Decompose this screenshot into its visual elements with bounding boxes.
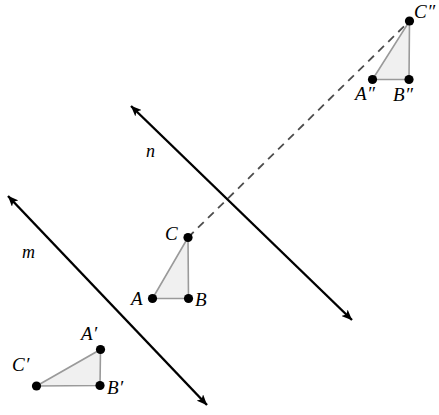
label-vertex-b-double-prime: B″ — [393, 85, 414, 104]
label-vertex-c-prime: C′ — [12, 355, 30, 374]
vertex-dot-b-prime — [95, 381, 104, 390]
label-vertex-a-double-prime: A″ — [355, 84, 376, 103]
dashed-connector-c-to-c-double-prime — [188, 21, 410, 238]
triangle-a-double-prime-b-double-prime-c-double-prime — [373, 21, 410, 80]
label-vertex-a: A — [131, 289, 143, 308]
label-vertex-c-double-prime: C″ — [414, 2, 436, 21]
label-line-m: m — [22, 243, 35, 261]
vertex-dot-b-double-prime — [404, 75, 413, 84]
label-vertex-a-prime: A′ — [81, 324, 98, 343]
label-line-n: n — [146, 142, 155, 160]
triangle-abc — [153, 238, 189, 299]
geometry-diagram: A B C A′ B′ C′ A″ B″ C″ m n — [0, 0, 439, 415]
vertex-dot-b — [184, 294, 193, 303]
vertex-dot-c — [183, 233, 192, 242]
vertex-dot-a — [148, 294, 157, 303]
geometry-canvas — [0, 0, 439, 415]
vertex-dot-c-double-prime — [405, 16, 414, 25]
label-vertex-b-prime: B′ — [107, 378, 124, 397]
triangle-a-prime-b-prime-c-prime — [37, 350, 101, 387]
label-vertex-c: C — [165, 224, 178, 243]
label-vertex-b: B — [195, 290, 207, 309]
vertex-dot-c-prime — [32, 381, 41, 390]
vertex-dot-a-prime — [96, 345, 105, 354]
